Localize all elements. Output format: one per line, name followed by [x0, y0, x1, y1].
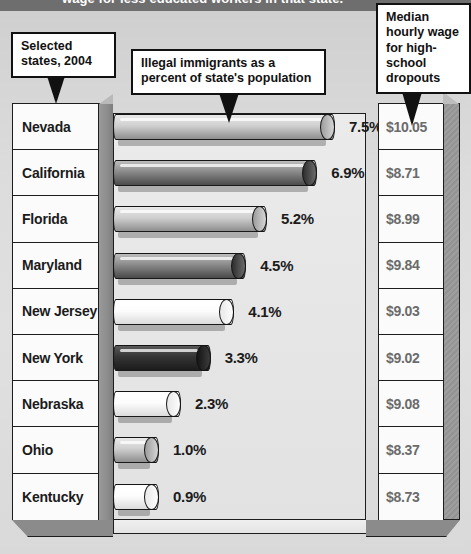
state-label: Maryland [13, 243, 98, 289]
state-label: Nevada [13, 104, 98, 150]
bar-shadow [118, 231, 258, 238]
wage-value: $8.71 [379, 150, 443, 196]
wage-value: $8.73 [379, 474, 443, 520]
bar-end-cap [320, 114, 335, 140]
bar-highlight [120, 303, 221, 306]
bar-highlight [120, 257, 233, 260]
wage-value: $8.99 [379, 196, 443, 242]
bar-shadow [118, 509, 150, 516]
callout-pointer-icon [402, 92, 422, 126]
value-label: 5.2% [281, 210, 314, 227]
state-label: New Jersey [13, 289, 98, 335]
callout-left-text: Selected states, 2004 [21, 39, 92, 68]
value-label: 4.5% [260, 257, 293, 274]
callout-right-text: Median hourly wage for high-school dropo… [386, 10, 459, 85]
bar-end-cap [196, 345, 211, 371]
value-label: 3.3% [225, 349, 258, 366]
value-label: 2.3% [195, 395, 228, 412]
state-label: California [13, 150, 98, 196]
bar-shadow [118, 416, 172, 423]
callout-percent-label: Illegal immigrants as a percent of state… [131, 49, 326, 95]
bar-shadow [118, 462, 150, 469]
wage-value: $9.03 [379, 289, 443, 335]
value-label: 6.9% [331, 164, 364, 181]
value-label: 1.0% [173, 441, 206, 458]
callout-pointer-icon [47, 76, 65, 104]
wage-value: $9.84 [379, 243, 443, 289]
callout-wage-label: Median hourly wage for high-school dropo… [376, 3, 471, 94]
bar-end-cap [144, 437, 159, 463]
bar-highlight [120, 210, 254, 213]
value-label: 7.5% [349, 118, 382, 135]
bar-shadow [118, 324, 225, 331]
bar-shadow [118, 185, 308, 192]
bar-end-cap [166, 391, 181, 417]
state-label: Ohio [13, 427, 98, 473]
bar-highlight [120, 395, 168, 398]
state-label: Nebraska [13, 381, 98, 427]
bar-end-cap [252, 206, 267, 232]
bar-highlight [120, 349, 198, 352]
bar-highlight [120, 441, 146, 444]
wage-value: $8.37 [379, 427, 443, 473]
bar-end-cap [302, 160, 317, 186]
state-label: Florida [13, 196, 98, 242]
bar-end-cap [231, 253, 246, 279]
wage-value: $9.08 [379, 381, 443, 427]
callout-selected-states: Selected states, 2004 [11, 32, 116, 78]
callout-center-text: Illegal immigrants as a percent of state… [141, 56, 311, 85]
bar-end-cap [219, 299, 234, 325]
bar-highlight [120, 164, 304, 167]
bar-end-cap [144, 484, 159, 510]
state-label: New York [13, 335, 98, 381]
wage-value: $9.02 [379, 335, 443, 381]
bar-shadow [118, 278, 237, 285]
value-label: 4.1% [248, 303, 281, 320]
callout-pointer-icon [219, 93, 239, 123]
bar-highlight [120, 488, 146, 491]
bar-shadow [118, 139, 326, 146]
bar-shadow [118, 370, 202, 377]
state-label: Kentucky [13, 474, 98, 520]
value-label: 0.9% [173, 488, 206, 505]
